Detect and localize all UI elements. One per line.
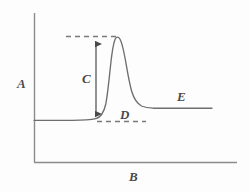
- diagram-canvas: [0, 0, 249, 192]
- plateau-label: E: [177, 90, 186, 103]
- x-axis-label: B: [129, 170, 138, 183]
- baseline-label: D: [120, 108, 129, 121]
- y-axis-label: A: [17, 77, 26, 90]
- figure-container: A B C D E: [0, 0, 249, 192]
- amplitude-arrow-label: C: [82, 72, 91, 85]
